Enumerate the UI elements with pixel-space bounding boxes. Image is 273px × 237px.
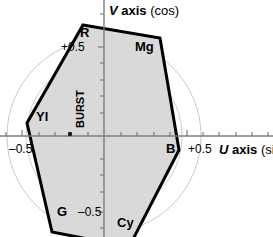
- v-axis-function: (cos): [150, 3, 179, 18]
- vertex-label-blue: B: [166, 142, 175, 155]
- colour-burst-polygon: [27, 25, 179, 237]
- u-axis-word: axis: [232, 142, 257, 157]
- colour-burst-vector-plot: V axis (cos) U axis (sin) –0.5 +0.5 +0.5…: [0, 0, 273, 237]
- vertex-label-green: G: [57, 205, 67, 218]
- vertex-label-magenta: Mg: [135, 40, 154, 53]
- burst-origin-point: [68, 132, 72, 136]
- u-axis-negative-tick-label: –0.5: [9, 143, 32, 155]
- v-axis-word: axis: [121, 3, 146, 18]
- v-axis-variable: V: [109, 3, 118, 18]
- v-axis-negative-tick-label: –0.5: [78, 206, 101, 218]
- u-axis-variable: U: [219, 142, 228, 157]
- v-axis-positive-tick-label: +0.5: [61, 41, 85, 53]
- vertex-label-red: R: [80, 26, 89, 39]
- burst-origin-label: BURST: [75, 90, 86, 128]
- u-axis-positive-tick-label: +0.5: [188, 143, 212, 155]
- vertex-label-cyan: Cy: [117, 216, 134, 229]
- v-axis-title: V axis (cos): [109, 4, 179, 17]
- u-axis-function: (sin): [261, 142, 273, 157]
- vertex-label-yellow: Yl: [36, 110, 48, 123]
- u-axis-title: U axis (sin): [219, 143, 273, 156]
